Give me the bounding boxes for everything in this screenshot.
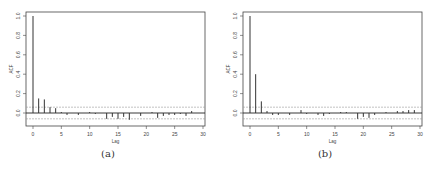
y-tick-label: 1.0 (232, 12, 238, 19)
y-tick-label: 0.0 (232, 109, 238, 116)
plot-frame (26, 12, 205, 126)
x-tick-label: 10 (304, 131, 310, 137)
acf-plot-b: 0510152025300.00.20.40.60.81.0LagACF (217, 0, 433, 145)
x-tick-label: 5 (277, 131, 280, 137)
x-tick-label: 10 (87, 131, 93, 137)
caption-b: (b) (217, 148, 433, 159)
x-tick-label: 20 (144, 131, 150, 137)
y-axis-label: ACF (9, 64, 14, 73)
x-axis-label: Lag (329, 139, 337, 144)
y-tick-label: 0.2 (15, 90, 21, 97)
y-axis-label: ACF (226, 64, 231, 73)
y-tick-label: 0.6 (15, 51, 21, 58)
y-tick-label: 0.6 (232, 51, 238, 58)
acf-panel-b: 0510152025300.00.20.40.60.81.0LagACF (b) (217, 0, 433, 175)
plot-frame (243, 12, 422, 126)
caption-a: (a) (0, 148, 216, 159)
acf-plot-a: 0510152025300.00.20.40.60.81.0LagACF (0, 0, 216, 145)
y-tick-label: 0.4 (15, 71, 21, 78)
y-tick-label: 0.0 (15, 109, 21, 116)
y-tick-label: 0.4 (232, 71, 238, 78)
x-tick-label: 30 (417, 131, 423, 137)
x-tick-label: 15 (115, 131, 121, 137)
x-tick-label: 20 (361, 131, 367, 137)
x-tick-label: 5 (60, 131, 63, 137)
y-tick-label: 0.8 (232, 32, 238, 39)
x-tick-label: 0 (249, 131, 252, 137)
y-tick-label: 1.0 (15, 12, 21, 19)
y-tick-label: 0.2 (232, 90, 238, 97)
y-tick-label: 0.8 (15, 32, 21, 39)
x-tick-label: 0 (32, 131, 35, 137)
acf-panel-a: 0510152025300.00.20.40.60.81.0LagACF (a) (0, 0, 216, 175)
x-tick-label: 25 (172, 131, 178, 137)
x-tick-label: 25 (389, 131, 395, 137)
x-tick-label: 30 (200, 131, 206, 137)
x-axis-label: Lag (112, 139, 120, 144)
x-tick-label: 15 (332, 131, 338, 137)
